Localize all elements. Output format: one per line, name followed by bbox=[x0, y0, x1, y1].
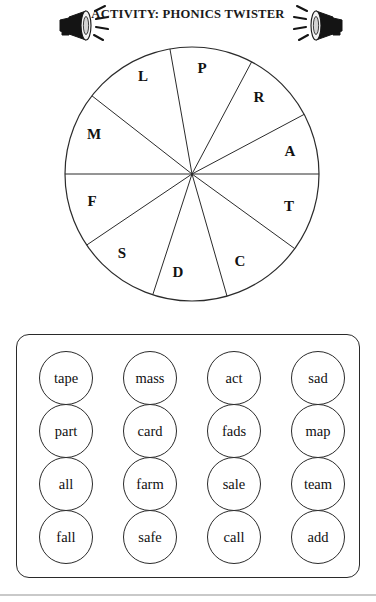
footer-divider bbox=[0, 594, 376, 596]
word-column: sadmapteamadd bbox=[291, 351, 345, 563]
wheel-letter-p: P bbox=[197, 60, 206, 76]
word-label: add bbox=[308, 530, 329, 545]
word-column: tapepartallfall bbox=[39, 351, 93, 563]
word-circle[interactable]: team bbox=[291, 457, 345, 511]
wheel-letter-d: D bbox=[173, 264, 184, 280]
word-label: call bbox=[224, 530, 245, 545]
word-column: masscardfarmsafe bbox=[123, 351, 177, 563]
wheel-svg: PRATCDSFML bbox=[60, 42, 328, 308]
word-label: act bbox=[226, 371, 243, 386]
word-label: all bbox=[59, 477, 74, 492]
wheel-letter-l: L bbox=[138, 68, 148, 84]
word-label: sale bbox=[223, 477, 246, 492]
wheel-letter-a: A bbox=[285, 143, 296, 159]
word-circle[interactable]: act bbox=[207, 351, 261, 405]
word-circle[interactable]: farm bbox=[123, 457, 177, 511]
wheel-letter-m: M bbox=[87, 126, 101, 142]
word-label: safe bbox=[138, 530, 161, 545]
wheel-letter-s: S bbox=[118, 245, 126, 261]
word-label: tape bbox=[54, 371, 78, 386]
word-circle[interactable]: sale bbox=[207, 457, 261, 511]
word-label: team bbox=[304, 477, 332, 492]
word-circle[interactable]: call bbox=[207, 510, 261, 564]
word-circle[interactable]: map bbox=[291, 404, 345, 458]
wheel-letter-r: R bbox=[254, 89, 265, 105]
phonics-spinner-wheel[interactable]: PRATCDSFML bbox=[60, 42, 328, 308]
word-label: sad bbox=[308, 371, 327, 386]
word-bank-grid: tapepartallfallmasscardfarmsafeactfadssa… bbox=[17, 335, 361, 579]
word-label: part bbox=[55, 424, 78, 439]
wheel-letter-f: F bbox=[87, 193, 96, 209]
word-column: actfadssalecall bbox=[207, 351, 261, 563]
wheel-letter-t: T bbox=[284, 198, 294, 214]
word-circle[interactable]: all bbox=[39, 457, 93, 511]
word-label: mass bbox=[136, 371, 165, 386]
word-circle[interactable]: tape bbox=[39, 351, 93, 405]
word-label: fall bbox=[56, 530, 75, 545]
word-bank-panel: tapepartallfallmasscardfarmsafeactfadssa… bbox=[16, 334, 360, 578]
word-circle[interactable]: sad bbox=[291, 351, 345, 405]
word-circle[interactable]: safe bbox=[123, 510, 177, 564]
word-circle[interactable]: add bbox=[291, 510, 345, 564]
word-circle[interactable]: card bbox=[123, 404, 177, 458]
word-circle[interactable]: fads bbox=[207, 404, 261, 458]
word-label: map bbox=[306, 424, 331, 439]
word-circle[interactable]: mass bbox=[123, 351, 177, 405]
word-label: farm bbox=[136, 477, 163, 492]
activity-header: ACTIVITY: PHONICS TWISTER bbox=[0, 0, 376, 44]
megaphone-icon bbox=[286, 2, 346, 42]
word-circle[interactable]: fall bbox=[39, 510, 93, 564]
word-label: card bbox=[138, 424, 163, 439]
word-circle[interactable]: part bbox=[39, 404, 93, 458]
word-label: fads bbox=[222, 424, 246, 439]
wheel-letter-c: C bbox=[235, 253, 246, 269]
